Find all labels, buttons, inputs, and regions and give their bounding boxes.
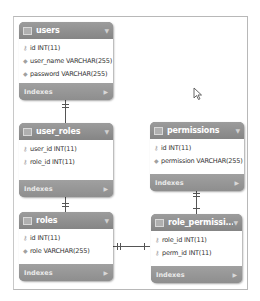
collapse-arrow-icon[interactable]: ▼	[235, 127, 240, 134]
column-row[interactable]: ◆password VARCHAR(255)	[19, 67, 113, 80]
mouse-cursor-icon	[193, 87, 203, 101]
table-name: users	[36, 26, 104, 35]
diamond-icon: ◆	[154, 157, 159, 164]
column-row[interactable]: ◆role VARCHAR(255)	[19, 244, 113, 257]
table-name: user_roles	[36, 127, 104, 136]
collapse-arrow-icon[interactable]: ▼	[233, 219, 238, 226]
many-mark	[193, 208, 200, 209]
indexes-section[interactable]: Indexes ▶	[150, 174, 244, 191]
key-icon: ⚷	[154, 144, 159, 151]
one-mark	[62, 206, 69, 207]
many-mark	[144, 243, 145, 250]
key-icon: ⚷	[155, 249, 160, 256]
rel-permissions-role-permissions[interactable]	[196, 188, 197, 214]
one-mark	[193, 196, 200, 197]
table-icon	[23, 128, 32, 136]
table-user-roles[interactable]: user_roles ▼ ⚷user_id INT(11) ⚷role_id I…	[19, 123, 113, 197]
table-name: permissions	[167, 126, 235, 135]
table-icon	[155, 219, 164, 227]
column-row[interactable]: ⚷id INT(11)	[150, 141, 244, 154]
table-header[interactable]: user_roles ▼	[19, 123, 113, 140]
one-mark	[62, 203, 69, 204]
table-users[interactable]: users ▼ ⚷id INT(11) ◆user_name VARCHAR(2…	[19, 22, 113, 100]
one-mark	[62, 107, 69, 108]
column-row[interactable]: ⚷user_id INT(11)	[19, 142, 113, 155]
column-row[interactable]: ⚷id INT(11)	[19, 231, 113, 244]
column-row[interactable]: ◆permission VARCHAR(255)	[150, 154, 244, 167]
expand-arrow-icon[interactable]: ▶	[103, 88, 108, 95]
column-row[interactable]: ⚷role_id INT(11)	[151, 233, 242, 246]
table-roles[interactable]: roles ▼ ⚷id INT(11) ◆role VARCHAR(255) I…	[19, 212, 113, 281]
column-row[interactable]: ⚷role_id INT(11)	[19, 155, 113, 168]
indexes-section[interactable]: Indexes ▶	[19, 264, 113, 281]
indexes-section[interactable]: Indexes ▶	[19, 180, 113, 197]
table-name: roles	[36, 216, 104, 225]
expand-arrow-icon[interactable]: ▶	[234, 179, 239, 186]
one-mark	[193, 193, 200, 194]
key-icon: ⚷	[23, 44, 28, 51]
expand-arrow-icon[interactable]: ▶	[103, 185, 108, 192]
column-row[interactable]: ⚷perm_id INT(11)	[151, 246, 242, 259]
one-mark	[62, 104, 69, 105]
table-permissions[interactable]: permissions ▼ ⚷id INT(11) ◆permission VA…	[150, 122, 244, 191]
table-header[interactable]: permissions ▼	[150, 122, 244, 139]
collapse-arrow-icon[interactable]: ▼	[104, 27, 109, 34]
table-icon	[23, 27, 32, 35]
collapse-arrow-icon[interactable]: ▼	[104, 217, 109, 224]
key-icon: ⚷	[23, 158, 28, 165]
key-icon: ⚷	[23, 234, 28, 241]
key-icon: ⚷	[23, 145, 28, 152]
diamond-icon: ◆	[23, 247, 28, 254]
expand-arrow-icon[interactable]: ▶	[103, 269, 108, 276]
column-row[interactable]: ◆user_name VARCHAR(255)	[19, 54, 113, 67]
one-mark	[120, 243, 121, 250]
diamond-icon: ◆	[23, 70, 28, 77]
diamond-icon: ◆	[23, 57, 28, 64]
table-icon	[23, 217, 32, 225]
table-header[interactable]: users ▼	[19, 22, 113, 39]
table-header[interactable]: role_permissi... ▼	[151, 214, 242, 231]
table-header[interactable]: roles ▼	[19, 212, 113, 229]
collapse-arrow-icon[interactable]: ▼	[104, 128, 109, 135]
table-icon	[154, 127, 163, 135]
one-mark	[117, 243, 118, 250]
table-name: role_permissi...	[168, 218, 233, 227]
key-icon: ⚷	[155, 236, 160, 243]
indexes-section[interactable]: Indexes ▶	[151, 266, 242, 283]
column-row[interactable]: ⚷id INT(11)	[19, 41, 113, 54]
table-role-permissions[interactable]: role_permissi... ▼ ⚷role_id INT(11) ⚷per…	[151, 214, 242, 283]
indexes-section[interactable]: Indexes ▶	[19, 83, 113, 100]
expand-arrow-icon[interactable]: ▶	[232, 271, 237, 278]
